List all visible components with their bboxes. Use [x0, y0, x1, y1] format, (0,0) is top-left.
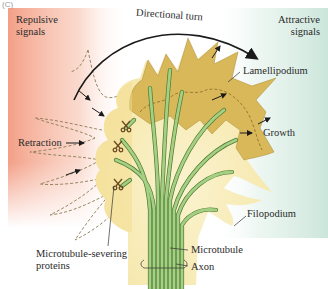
axon-label: Axon: [191, 261, 214, 273]
retraction-label: Retraction: [18, 137, 62, 149]
panel-label: (C): [2, 0, 13, 9]
microtubule-label: Microtubule: [191, 244, 243, 256]
attractive-signals-label: Attractive signals: [262, 14, 320, 38]
growth-cone-diagram: (C) Repulsive signals Directional turn A…: [0, 0, 328, 289]
growth-label: Growth: [263, 127, 295, 139]
microtubule-severing-label: Microtubule-severing proteins: [36, 248, 127, 272]
filopodium-label: Filopodium: [247, 208, 296, 220]
lamellipodium-label: Lamellipodium: [243, 65, 308, 77]
repulsive-signals-label: Repulsive signals: [16, 14, 58, 38]
